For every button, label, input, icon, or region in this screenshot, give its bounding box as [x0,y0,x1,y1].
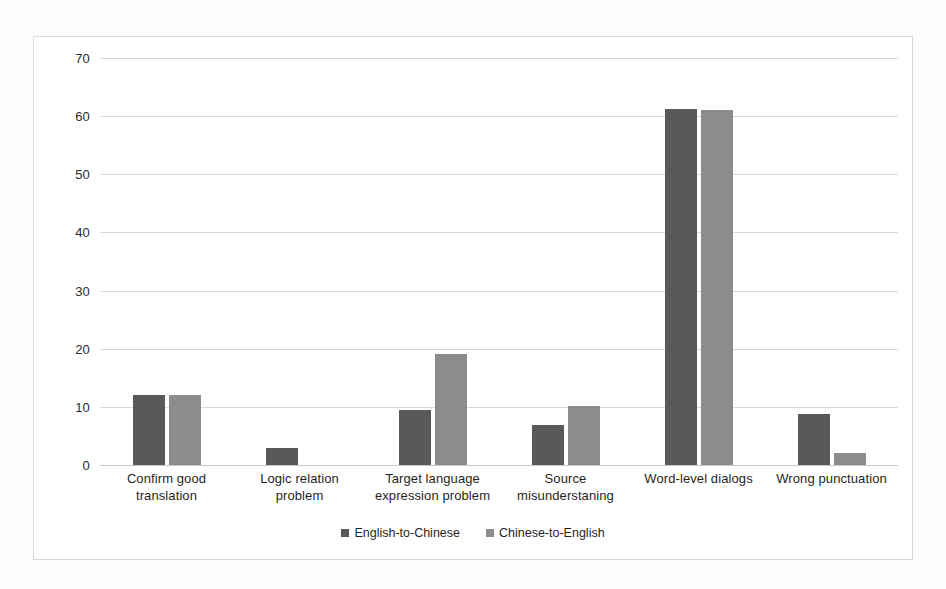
y-axis-tick-label: 0 [83,458,90,473]
x-axis-category-label: Target languageexpression problem [366,470,499,504]
x-axis-category-label: Logic relation problem [233,470,366,504]
bar[interactable] [399,410,431,465]
bar[interactable] [133,395,165,465]
legend-swatch-icon [341,529,349,537]
y-axis-tick-label: 10 [75,399,90,414]
bar-group [100,58,233,465]
bar[interactable] [701,110,733,465]
legend-swatch-icon [486,529,494,537]
y-axis-tick-label: 30 [75,283,90,298]
bar-group [366,58,499,465]
bar[interactable] [834,453,866,465]
bar-group [765,58,898,465]
legend-label: English-to-Chinese [354,526,460,540]
gridline-0 [100,465,898,466]
bar-group [233,58,366,465]
chart-page: 010203040506070 Confirm goodtranslationL… [0,0,946,589]
bar-group [499,58,632,465]
bar-group [632,58,765,465]
bar[interactable] [798,414,830,465]
x-axis-category-label: Sourcemisunderstaning [499,470,632,504]
x-axis-labels: Confirm goodtranslationLogic relation pr… [100,470,898,504]
legend-item[interactable]: Chinese-to-English [486,526,605,540]
y-axis-tick-label: 20 [75,341,90,356]
bar[interactable] [568,406,600,465]
y-axis-tick-label: 40 [75,225,90,240]
bars-layer [100,58,898,465]
y-axis-tick-label: 70 [75,51,90,66]
y-axis-tick-label: 60 [75,109,90,124]
plot-area: 010203040506070 [100,58,898,465]
y-axis-tick-label: 50 [75,167,90,182]
chart-legend: English-to-ChineseChinese-to-English [34,526,912,540]
legend-label: Chinese-to-English [499,526,605,540]
bar[interactable] [435,354,467,465]
chart-frame: 010203040506070 Confirm goodtranslationL… [33,36,913,560]
bar[interactable] [169,395,201,465]
x-axis-category-label: Confirm goodtranslation [100,470,233,504]
x-axis-category-label: Word-level dialogs [632,470,765,504]
legend-item[interactable]: English-to-Chinese [341,526,460,540]
bar[interactable] [665,109,697,465]
x-axis-category-label: Wrong punctuation [765,470,898,504]
bar[interactable] [532,425,564,465]
bar[interactable] [266,448,298,465]
